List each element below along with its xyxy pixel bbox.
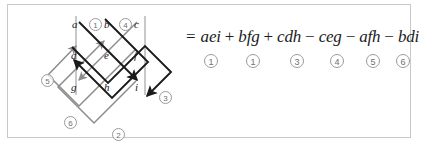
- diagram-marker-4: 4: [119, 18, 132, 31]
- equation-index-ceg: 4: [330, 54, 344, 68]
- operator-minus-1: −: [305, 27, 315, 47]
- matrix-letter-f: f: [134, 50, 137, 61]
- term-afh: afh: [359, 27, 380, 47]
- equals-sign: =: [186, 27, 196, 47]
- term-cdh: cdh: [277, 27, 301, 47]
- diagram-marker-2: 2: [112, 128, 125, 141]
- operator-plus-1: +: [225, 27, 235, 47]
- equation-index-row: 1 1 3 4 5 6: [186, 54, 408, 72]
- operator-minus-3: −: [384, 27, 394, 47]
- matrix-letter-e: e: [104, 50, 109, 61]
- matrix-letter-h: h: [104, 82, 110, 93]
- equation-index-afh: 5: [366, 54, 380, 68]
- matrix-letter-b: b: [104, 19, 110, 30]
- equation-index-bfg: 1: [246, 54, 260, 68]
- matrix-letter-c: c: [134, 19, 139, 30]
- operator-plus-2: +: [263, 27, 273, 47]
- term-bdi: bdi: [398, 27, 419, 47]
- equation-index-cdh: 3: [290, 54, 304, 68]
- diagram-marker-1: 1: [89, 18, 102, 31]
- matrix-letter-a: a: [72, 19, 78, 30]
- determinant-equation: = aei + bfg + cdh − ceg − afh − bdi 1 1 …: [186, 27, 408, 87]
- term-ceg: ceg: [319, 27, 342, 47]
- matrix-letter-d: d: [71, 50, 77, 61]
- operator-minus-2: −: [346, 27, 356, 47]
- diagram-marker-3: 3: [159, 91, 172, 104]
- term-bfg: bfg: [238, 27, 259, 47]
- figure-root: a b c d e f g h i 1 4 5 3 6 2 = aei + bf…: [0, 0, 421, 153]
- diagram-marker-5: 5: [41, 74, 54, 87]
- equation-index-aei: 1: [204, 54, 218, 68]
- equation-index-bdi: 6: [396, 54, 410, 68]
- matrix-letter-i: i: [135, 82, 138, 93]
- equation-line: = aei + bfg + cdh − ceg − afh − bdi: [186, 27, 408, 53]
- figure-panel: a b c d e f g h i 1 4 5 3 6 2 = aei + bf…: [7, 4, 411, 138]
- matrix-letter-g: g: [71, 82, 77, 93]
- diagram-marker-6: 6: [64, 116, 77, 129]
- sarrus-arrow-diagram: a b c d e f g h i 1 4 5 3 6 2: [8, 5, 183, 139]
- term-aei: aei: [201, 27, 221, 47]
